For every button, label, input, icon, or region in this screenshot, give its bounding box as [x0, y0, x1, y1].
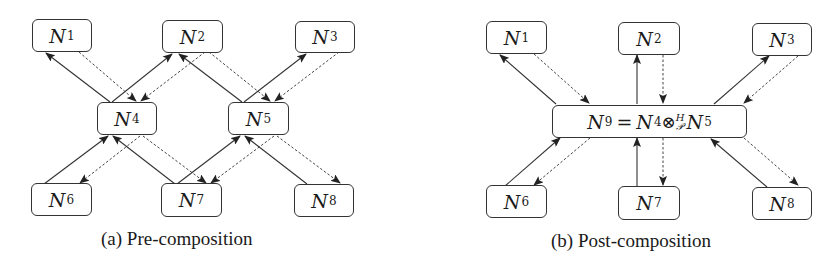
- composite-operand-a-subscript: 4: [654, 115, 662, 129]
- edge-b-n9-n3: [714, 56, 769, 104]
- edge-b-n8-n9: [711, 139, 767, 187]
- edge-b-n9-n6: [534, 138, 590, 185]
- composite-lhs-subscript: 9: [605, 115, 613, 129]
- edge-a-n7-n5: [177, 136, 240, 184]
- equals-sign: =: [616, 111, 632, 133]
- node-a-n3: N3: [295, 21, 355, 53]
- node-label: N: [312, 26, 329, 48]
- node-label: N: [179, 189, 196, 211]
- node-label: N: [49, 25, 66, 47]
- composite-operand-b-subscript: 5: [704, 115, 712, 129]
- node-b-n7: N7: [618, 186, 680, 220]
- node-a-n1: N1: [32, 19, 92, 52]
- node-label: N: [636, 192, 653, 214]
- caption-a: (a) Pre-composition: [101, 228, 252, 250]
- node-subscript: 6: [521, 195, 529, 209]
- node-subscript: 3: [787, 33, 795, 47]
- node-a-n5: N5: [228, 102, 289, 135]
- edge-a-n7-n4: [113, 136, 175, 184]
- node-subscript: 2: [197, 30, 205, 44]
- node-a-n4: N4: [97, 102, 157, 135]
- node-a-n6: N6: [31, 183, 92, 216]
- node-a-n8: N8: [294, 184, 354, 217]
- node-subscript: 6: [66, 193, 74, 207]
- edge-a-n3-n5: [275, 52, 339, 101]
- node-subscript: 2: [654, 32, 662, 46]
- node-subscript: 3: [330, 30, 338, 44]
- node-label: N: [246, 108, 263, 130]
- edge-a-n5-n7: [211, 136, 274, 183]
- node-label: N: [114, 108, 131, 130]
- node-label: N: [180, 26, 197, 48]
- node-b-n6: N6: [486, 185, 547, 218]
- composite-lhs: N: [587, 111, 604, 133]
- node-b-n1: N1: [486, 21, 547, 54]
- edge-b-n9-n1: [500, 55, 556, 104]
- node-b-n2: N2: [618, 22, 680, 55]
- node-label: N: [636, 28, 653, 50]
- node-a-n2: N2: [162, 20, 223, 53]
- edge-a-n2-n4: [141, 52, 205, 101]
- node-b-n3: N3: [752, 23, 812, 56]
- edge-b-n3-n9: [744, 56, 798, 103]
- edge-a-n4-n6: [80, 136, 140, 183]
- edge-b-n1-n9: [534, 54, 589, 103]
- node-subscript: 1: [67, 29, 75, 43]
- node-label: N: [504, 27, 521, 49]
- edge-b-n6-n9: [505, 138, 560, 186]
- node-label: N: [769, 193, 786, 215]
- edge-a-n4-n2: [112, 54, 172, 102]
- edge-a-n1-n4: [79, 52, 136, 101]
- node-b-n9-composite: N9 = N4 ⊗ H𝒫 N5: [552, 105, 747, 138]
- edge-a-n8-n5: [245, 136, 307, 184]
- edge-b-n9-n8: [744, 138, 798, 185]
- tensor-product-operator: ⊗: [662, 112, 676, 132]
- node-label: N: [769, 29, 786, 51]
- node-subscript: 7: [654, 196, 662, 210]
- edge-a-n5-n2: [179, 54, 242, 102]
- node-label: N: [311, 190, 328, 212]
- node-label: N: [49, 189, 66, 211]
- operator-scripts: H𝒫: [676, 113, 685, 131]
- edge-a-n4-n7: [143, 136, 206, 183]
- edge-a-n2-n5: [209, 52, 270, 101]
- node-subscript: 7: [196, 193, 204, 207]
- node-subscript: 8: [329, 194, 337, 208]
- node-label: N: [504, 191, 521, 213]
- node-a-n7: N7: [161, 183, 222, 217]
- node-b-n8: N8: [752, 187, 812, 220]
- composite-operand-a: N: [636, 111, 653, 133]
- node-subscript: 5: [263, 112, 271, 126]
- node-subscript: 1: [521, 31, 529, 45]
- composite-operand-b: N: [687, 111, 704, 133]
- edge-a-n4-n1: [46, 53, 110, 102]
- edge-a-n6-n4: [44, 136, 108, 184]
- node-subscript: 8: [787, 197, 795, 211]
- edge-a-n5-n3: [244, 54, 306, 102]
- operator-subscript: 𝒫: [676, 122, 685, 131]
- node-subscript: 4: [132, 112, 140, 126]
- caption-b: (b) Post-composition: [551, 230, 711, 252]
- edge-a-n5-n8: [277, 136, 340, 183]
